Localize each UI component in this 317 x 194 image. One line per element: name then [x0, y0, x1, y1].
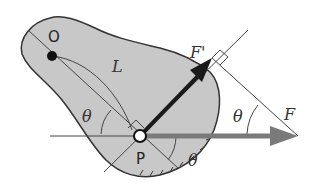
- label-O: O: [48, 28, 60, 46]
- label-F: F: [283, 105, 296, 124]
- label-theta-right: θ: [233, 107, 243, 126]
- label-theta-bottom: θ: [188, 151, 198, 170]
- label-L: L: [111, 57, 123, 76]
- label-Fprime: F': [189, 43, 206, 62]
- angle-arc-right: [247, 105, 258, 134]
- physics-diagram: O L P F F' θ θ θ: [0, 0, 317, 194]
- point-P: [134, 130, 146, 142]
- line-Fprime-F: [212, 58, 298, 136]
- pivot-O: [47, 51, 57, 61]
- label-P: P: [136, 150, 145, 168]
- force-F-arrowhead: [270, 126, 298, 146]
- label-theta-left: θ: [82, 107, 92, 126]
